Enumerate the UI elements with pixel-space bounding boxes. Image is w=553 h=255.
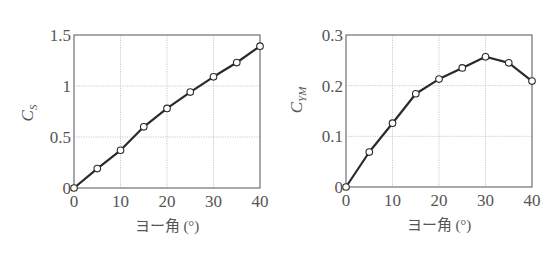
cym-x-tick-labels: 010203040 xyxy=(342,191,541,210)
cs-y-tick-label: 0 xyxy=(63,179,72,198)
cym-x-tick-label: 20 xyxy=(431,191,448,210)
cs-y-axis-label: CS xyxy=(18,104,39,121)
cym-data-point xyxy=(412,90,419,97)
cym-data-point xyxy=(343,184,350,191)
cs-data-point xyxy=(233,59,240,66)
cym-x-tick-label: 30 xyxy=(477,191,494,210)
cym-y-tick-label: 0.3 xyxy=(322,26,343,45)
cs-data-point xyxy=(187,89,194,96)
cym-y-tick-label: 0 xyxy=(335,178,344,197)
cym-data-point xyxy=(366,149,373,156)
cs-x-tick-label: 40 xyxy=(252,192,269,211)
cs-y-tick-label: 1 xyxy=(63,77,72,96)
cym-data-point xyxy=(505,60,512,67)
cym-y-tick-label: 0.2 xyxy=(322,77,343,96)
cs-data-point xyxy=(164,105,171,112)
figure: 010203040 00.511.5 ヨー角 (°) CS 010203040 … xyxy=(0,0,553,255)
cym-x-tick-label: 0 xyxy=(342,191,351,210)
cs-data-point xyxy=(71,185,78,192)
cym-x-tick-label: 40 xyxy=(524,191,541,210)
cs-x-tick-labels: 010203040 xyxy=(70,192,269,211)
cym-chart: 010203040 00.10.20.3 ヨー角 (°) CYM xyxy=(287,26,541,234)
cym-data-point xyxy=(459,65,466,72)
cs-x-axis-label: ヨー角 (°) xyxy=(135,218,200,235)
cym-gridlines xyxy=(346,35,532,187)
cym-data-point xyxy=(389,120,396,127)
cs-x-tick-label: 30 xyxy=(205,192,222,211)
cs-x-tick-label: 0 xyxy=(70,192,79,211)
cym-y-tick-label: 0.1 xyxy=(322,127,343,146)
cym-x-axis-label: ヨー角 (°) xyxy=(407,217,472,234)
cs-data-point xyxy=(210,74,217,81)
figure-svg: 010203040 00.511.5 ヨー角 (°) CS 010203040 … xyxy=(0,0,553,255)
cym-y-tick-labels: 00.10.20.3 xyxy=(322,26,343,197)
cs-chart: 010203040 00.511.5 ヨー角 (°) CS xyxy=(18,26,269,235)
cs-data-point xyxy=(94,165,101,172)
cs-x-tick-label: 20 xyxy=(159,192,176,211)
cym-x-tick-label: 10 xyxy=(384,191,401,210)
cym-y-axis-label: CYM xyxy=(287,86,308,113)
cs-y-tick-label: 1.5 xyxy=(50,26,71,45)
cym-data-point xyxy=(482,53,489,60)
cym-data-point xyxy=(529,78,536,85)
cs-data-point xyxy=(117,147,124,154)
cs-data-point xyxy=(257,43,264,50)
cym-data-point xyxy=(436,76,443,83)
cs-y-tick-labels: 00.511.5 xyxy=(50,26,71,198)
cs-y-tick-label: 0.5 xyxy=(50,128,71,147)
cs-data-point xyxy=(140,124,147,131)
cs-x-tick-label: 10 xyxy=(112,192,129,211)
